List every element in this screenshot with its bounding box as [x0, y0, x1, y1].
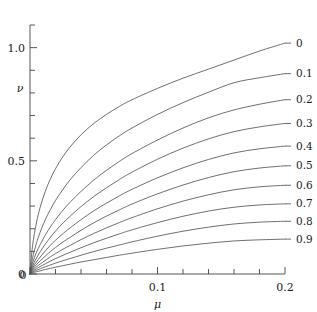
data-curve — [30, 74, 285, 274]
data-curve — [30, 43, 285, 274]
curve-value-label: 0.1 — [296, 67, 313, 79]
data-curve — [30, 146, 285, 274]
x-axis-title: μ — [154, 298, 161, 311]
curve-value-label: 0.7 — [296, 197, 313, 209]
x-axis-tick-label: 0.1 — [149, 281, 167, 294]
x-axis-tick-label: 0.2 — [276, 281, 294, 294]
curve-value-label: 0.6 — [296, 179, 313, 191]
data-curve — [30, 100, 285, 274]
y-axis-title: ν — [17, 82, 24, 95]
curve-value-label: 0.9 — [296, 233, 313, 245]
chart-figure: 00.10.20.30.40.50.60.70.80.900.51.000.10… — [0, 0, 317, 312]
curve-value-label: 0.3 — [296, 117, 313, 129]
y-axis-tick-label: 0.5 — [8, 155, 26, 168]
curve-value-label: 0.4 — [296, 140, 313, 152]
curve-value-label: 0.5 — [296, 159, 313, 171]
curve-value-label: 0.2 — [296, 93, 313, 105]
y-axis-tick-label: 1.0 — [8, 42, 26, 55]
chart-text-labels: 00.10.20.30.40.50.60.70.80.900.51.000.10… — [8, 37, 314, 311]
curve-leader-lines — [285, 43, 291, 239]
data-curve — [30, 123, 285, 274]
curves-group — [30, 43, 285, 274]
curve-value-label: 0.8 — [296, 215, 313, 227]
x-axis-tick-label: 0 — [20, 269, 27, 282]
line-chart-svg: 00.10.20.30.40.50.60.70.80.900.51.000.10… — [0, 0, 317, 312]
curve-value-label: 0 — [296, 37, 303, 49]
